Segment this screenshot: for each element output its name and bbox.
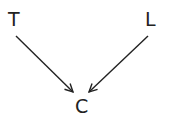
node-c: C — [75, 97, 88, 116]
edge-t-to-c-arrow — [16, 36, 73, 92]
node-t: T — [8, 10, 20, 29]
causal-diagram: T L C — [0, 0, 170, 129]
edge-l-to-c-arrow — [89, 36, 148, 92]
node-l: L — [145, 10, 156, 29]
